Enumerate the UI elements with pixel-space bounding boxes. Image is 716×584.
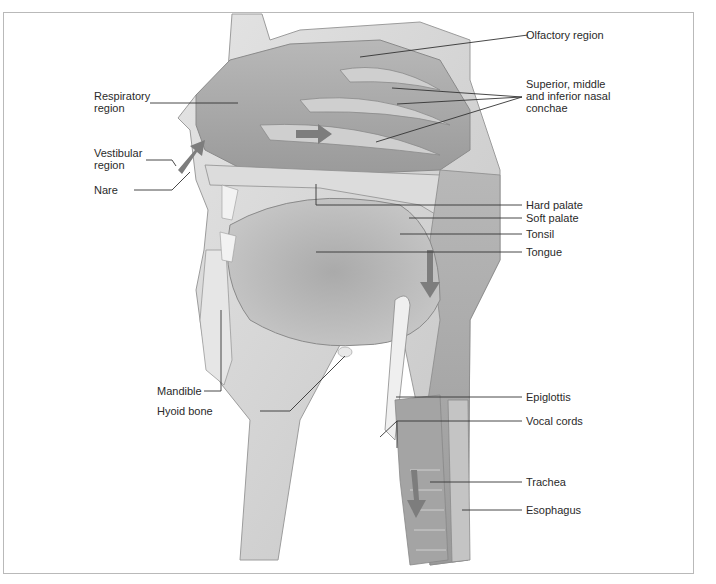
label-respiratory-region: Respiratory region	[94, 90, 150, 114]
label-trachea: Trachea	[526, 476, 566, 488]
label-nasal-conchae: Superior, middle and inferior nasal conc…	[526, 78, 624, 114]
label-hyoid-bone: Hyoid bone	[157, 405, 213, 417]
label-vocal-cords: Vocal cords	[526, 415, 583, 427]
label-tongue: Tongue	[526, 246, 562, 258]
trachea-tube	[395, 395, 448, 565]
hyoid-shape	[338, 347, 352, 357]
label-vestibular-region: Vestibular region	[94, 147, 146, 171]
label-esophagus: Esophagus	[526, 504, 581, 516]
esophagus-tube	[448, 400, 470, 562]
label-epiglottis: Epiglottis	[526, 391, 571, 403]
label-soft-palate: Soft palate	[526, 212, 579, 224]
label-olfactory-region: Olfactory region	[526, 29, 604, 41]
label-mandible: Mandible	[157, 385, 202, 397]
label-tonsil: Tonsil	[526, 228, 554, 240]
label-nare: Nare	[94, 184, 118, 196]
mandible-bone	[200, 250, 232, 385]
label-hard-palate: Hard palate	[526, 199, 583, 211]
